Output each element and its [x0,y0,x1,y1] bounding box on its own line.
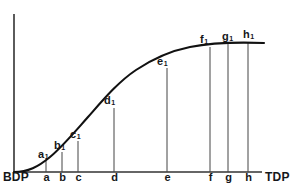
s-curve [14,43,264,172]
point-label-c1-sub: 1 [77,133,81,140]
point-label-h1-base: h [243,28,250,40]
point-label-e1: e1 [157,55,167,67]
point-label-h1-sub: 1 [250,33,254,40]
point-label-c1: c1 [70,128,80,140]
point-label-f1: f1 [200,33,208,45]
point-label-d1-sub: 1 [111,99,115,106]
point-label-h1: h1 [243,28,254,40]
tick-label-d: d [110,171,119,183]
tick-label-f: f [206,171,215,183]
point-label-f1-sub: 1 [204,38,208,45]
point-label-d1: d1 [104,94,115,106]
point-label-a1-sub: 1 [45,153,49,160]
point-label-e1-base: e [157,55,163,67]
point-label-b1-base: b [54,139,61,151]
point-label-a1-base: a [38,148,44,160]
point-label-g1-sub: 1 [229,35,233,42]
point-label-d1-base: d [104,94,111,106]
tdp-axis-label: TDP [265,170,290,184]
point-label-a1: a1 [38,148,48,160]
point-label-b1: b1 [54,139,65,151]
tick-label-c: c [74,171,83,183]
point-label-g1-base: g [222,30,229,42]
point-label-c1-base: c [70,128,76,140]
tick-label-b: b [58,171,67,183]
tick-label-a: a [42,171,51,183]
point-label-b1-sub: 1 [61,144,65,151]
point-label-g1: g1 [222,30,233,42]
tick-label-g: g [224,171,233,183]
bdp-axis-label: BDP [3,170,29,184]
tick-label-h: h [244,171,253,183]
tick-label-e: e [163,171,172,183]
point-label-e1-sub: 1 [164,60,168,67]
sigmoid-curve-figure: BDP TDP a b c d e f g h a1 b1 c1 d1 e1 f… [0,0,294,190]
